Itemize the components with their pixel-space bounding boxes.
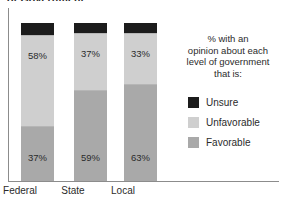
segment-label-unfavorable-state: 37% (74, 48, 107, 59)
legend-caption: % with an opinion about each level of go… (180, 33, 276, 79)
legend-item-unfavorable[interactable]: Unfavorable (188, 112, 276, 132)
segment-unfavorable-state[interactable]: 37% (74, 33, 107, 91)
segment-label-unfavorable-local: 33% (124, 48, 157, 59)
segment-label-favorable-federal: 37% (21, 152, 54, 163)
segment-label-favorable-local: 63% (124, 152, 157, 163)
segment-label-unfavorable-federal: 58% (21, 50, 54, 61)
legend-items: Unsure Unfavorable Favorable (180, 92, 276, 152)
segment-favorable-state[interactable]: 59% (74, 91, 107, 181)
x-axis-label-local: Local (97, 185, 149, 196)
stacked-bar-federal[interactable]: 58% 37% (21, 23, 54, 181)
segment-favorable-local[interactable]: 63% (124, 85, 157, 181)
stacked-bar-state[interactable]: 37% 59% (74, 23, 107, 181)
x-axis-label-federal: Federal (0, 185, 46, 196)
legend-caption-line-4: that is: (180, 68, 276, 80)
chart-title: of Government (7, 0, 84, 1)
legend-item-unsure[interactable]: Unsure (188, 92, 276, 112)
legend-caption-line-1: % with an (180, 33, 276, 45)
segment-favorable-federal[interactable]: 37% (21, 127, 54, 181)
stacked-bar-local[interactable]: 33% 63% (124, 23, 157, 181)
legend-swatch-unfavorable-icon (188, 117, 199, 128)
segment-label-favorable-state: 59% (74, 152, 107, 163)
segment-unfavorable-federal[interactable]: 58% (21, 35, 54, 127)
segment-unsure-federal[interactable] (21, 23, 54, 35)
legend-swatch-unsure-icon (188, 97, 199, 108)
x-axis-label-state: State (47, 185, 99, 196)
legend-caption-line-3: level of government (180, 56, 276, 68)
legend-item-favorable[interactable]: Favorable (188, 132, 276, 152)
legend-caption-line-2: opinion about each (180, 45, 276, 57)
legend-label-unfavorable: Unfavorable (206, 117, 260, 128)
legend-label-favorable: Favorable (206, 137, 250, 148)
legend-swatch-favorable-icon (188, 137, 199, 148)
segment-unfavorable-local[interactable]: 33% (124, 33, 157, 85)
legend: % with an opinion about each level of go… (180, 33, 276, 152)
segment-unsure-local[interactable] (124, 23, 157, 33)
segment-unsure-state[interactable] (74, 23, 107, 33)
legend-label-unsure: Unsure (206, 97, 238, 108)
